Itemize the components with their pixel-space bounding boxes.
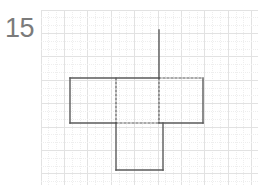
problem-number-label: 15 bbox=[5, 13, 34, 43]
graph-paper-panel bbox=[41, 10, 258, 185]
grid-lines bbox=[41, 10, 258, 185]
worksheet-page: 15 bbox=[0, 0, 268, 185]
